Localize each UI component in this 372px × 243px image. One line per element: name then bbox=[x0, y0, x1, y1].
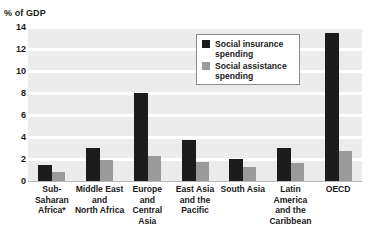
x-tick-label-line: Central bbox=[132, 205, 162, 215]
x-tick-label-line: Middle East bbox=[76, 184, 124, 194]
x-tick-label-line: and bbox=[140, 195, 155, 205]
x-tick-label-line: North Africa bbox=[75, 205, 124, 215]
bar-social-assistance bbox=[339, 151, 352, 181]
x-tick-label-line: Pacific bbox=[181, 205, 209, 215]
bars-layer bbox=[28, 27, 362, 181]
bar-social-assistance bbox=[52, 172, 65, 181]
x-tick-label-line: and bbox=[92, 195, 107, 205]
x-tick-label-line: Latin bbox=[280, 184, 301, 194]
x-tick-label-line: Europe bbox=[132, 184, 162, 194]
x-tick-label: OECD bbox=[310, 184, 366, 195]
bar-social-insurance bbox=[229, 159, 243, 181]
bar-group bbox=[134, 27, 161, 181]
x-tick-label-line: America bbox=[273, 195, 307, 205]
bar-group bbox=[325, 27, 352, 181]
y-tick-label: 0 bbox=[4, 177, 26, 186]
x-tick-label-line: and the bbox=[180, 195, 211, 205]
y-tick-label: 2 bbox=[4, 155, 26, 164]
y-tick-label: 10 bbox=[4, 67, 26, 76]
bar-social-assistance bbox=[100, 160, 113, 181]
bar-social-insurance bbox=[277, 148, 291, 181]
bar-group bbox=[86, 27, 113, 181]
bar-social-insurance bbox=[86, 148, 100, 181]
x-axis-baseline bbox=[28, 181, 362, 182]
bar-social-assistance bbox=[196, 162, 209, 181]
bar-social-insurance bbox=[38, 165, 52, 182]
x-tick-label-line: OECD bbox=[326, 184, 351, 194]
x-tick-label-line: Africa* bbox=[38, 205, 66, 215]
y-tick-label: 14 bbox=[4, 23, 26, 32]
x-tick-label-line: Caribbean bbox=[269, 216, 311, 226]
x-tick-label-line: Saharan bbox=[35, 195, 69, 205]
bar-social-insurance bbox=[325, 33, 339, 182]
bar-social-assistance bbox=[148, 156, 161, 181]
legend-item-label: Social insurancespending bbox=[215, 39, 283, 59]
chart-legend: Social insurancespending Social assistan… bbox=[196, 34, 300, 85]
x-tick-label-line: Sub- bbox=[42, 184, 61, 194]
y-tick-label: 12 bbox=[4, 45, 26, 54]
bar-group bbox=[38, 27, 65, 181]
y-tick-label: 8 bbox=[4, 89, 26, 98]
y-axis-title: % of GDP bbox=[4, 8, 46, 18]
x-tick-label-line: and the bbox=[275, 205, 306, 215]
bar-social-assistance bbox=[291, 163, 304, 181]
legend-item-social-insurance: Social insurancespending bbox=[202, 39, 294, 59]
y-tick-label: 6 bbox=[4, 111, 26, 120]
x-tick-label-line: Asia bbox=[138, 216, 156, 226]
x-tick-label-line: East Asia bbox=[176, 184, 214, 194]
bar-chart: % of GDP 02468101214 Sub-SaharanAfrica*M… bbox=[0, 0, 372, 243]
legend-item-label: Social assistancespending bbox=[215, 61, 287, 81]
x-axis-category-labels: Sub-SaharanAfrica*Middle EastandNorth Af… bbox=[28, 184, 362, 242]
y-tick-label: 4 bbox=[4, 133, 26, 142]
legend-swatch-icon bbox=[202, 40, 210, 48]
bar-social-assistance bbox=[243, 167, 256, 181]
legend-item-social-assistance: Social assistancespending bbox=[202, 61, 294, 81]
legend-swatch-icon bbox=[202, 62, 210, 70]
x-tick-label-line: South Asia bbox=[220, 184, 265, 194]
bar-social-insurance bbox=[182, 140, 196, 181]
bar-social-insurance bbox=[134, 93, 148, 181]
